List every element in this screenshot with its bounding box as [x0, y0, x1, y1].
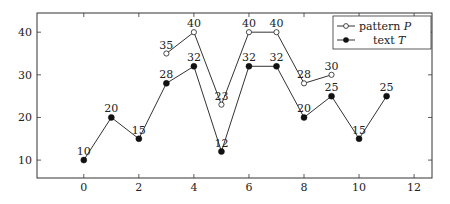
- data-label: 28: [297, 68, 311, 81]
- series-line: [84, 66, 387, 160]
- data-label: 32: [269, 51, 283, 64]
- legend-variable: P: [403, 20, 412, 33]
- x-tick-label: 2: [135, 181, 142, 194]
- data-label: 32: [187, 51, 201, 64]
- data-label: 23: [214, 90, 228, 103]
- open-circle-marker: [246, 30, 251, 35]
- data-label: 15: [132, 124, 146, 137]
- open-circle-marker: [274, 30, 279, 35]
- x-tick-label: 0: [80, 181, 87, 194]
- x-tick-label: 6: [245, 181, 252, 194]
- data-label: 20: [104, 102, 118, 115]
- x-tick-label: 10: [352, 181, 366, 194]
- y-tick-label: 10: [18, 154, 32, 167]
- data-label: 32: [242, 51, 256, 64]
- open-circle-marker: [219, 102, 224, 107]
- open-circle-marker: [301, 81, 306, 86]
- data-label: 30: [325, 60, 339, 73]
- data-label: 25: [380, 81, 394, 94]
- data-label: 40: [269, 17, 283, 30]
- data-label: 20: [297, 102, 311, 115]
- data-label: 15: [352, 124, 366, 137]
- legend-filled-circle-icon: [343, 37, 349, 43]
- legend-open-circle-icon: [344, 24, 349, 29]
- data-label: 25: [325, 81, 339, 94]
- x-tick-label: 12: [407, 181, 421, 194]
- y-tick-label: 30: [18, 69, 32, 82]
- open-circle-marker: [329, 72, 334, 77]
- x-tick-label: 4: [190, 181, 197, 194]
- data-label: 35: [159, 39, 173, 52]
- y-tick-label: 20: [18, 111, 32, 124]
- line-chart: 024681012 10203040 354023404028301020152…: [0, 0, 450, 204]
- legend: pattern Ptext T: [333, 16, 431, 49]
- data-label: 10: [77, 145, 91, 158]
- y-tick-label: 40: [18, 26, 32, 39]
- data-label: 40: [187, 17, 201, 30]
- data-label: 12: [214, 137, 228, 150]
- legend-label: pattern P: [359, 20, 412, 33]
- open-circle-marker: [191, 30, 196, 35]
- data-label: 28: [159, 68, 173, 81]
- legend-label: text T: [373, 34, 407, 47]
- data-label: 40: [242, 17, 256, 30]
- x-tick-label: 8: [301, 181, 308, 194]
- open-circle-marker: [164, 51, 169, 56]
